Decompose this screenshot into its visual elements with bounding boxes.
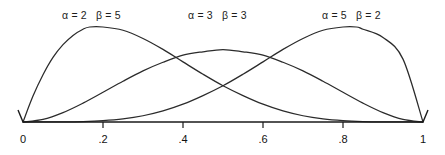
- curves-group: [23, 27, 423, 122]
- curve-parameter-label: α = 2β = 5: [62, 9, 121, 21]
- density-curve: [23, 27, 423, 122]
- beta-distribution-figure: α = 2β = 5α = 3β = 3α = 5β = 2 0.2.4.6.8…: [0, 0, 445, 155]
- x-tick-label: .2: [98, 133, 107, 145]
- beta-parameter-text: β = 5: [96, 9, 121, 21]
- x-tick-label: 1: [420, 133, 426, 145]
- plot-area: [0, 0, 445, 155]
- alpha-parameter-text: α = 5: [322, 9, 347, 21]
- curve-parameter-label: α = 3β = 3: [188, 9, 247, 21]
- density-curve: [23, 27, 423, 122]
- x-axis-right-cap: [423, 110, 428, 122]
- x-axis-group: [18, 110, 428, 128]
- alpha-parameter-text: α = 2: [62, 9, 87, 21]
- x-tick-label: .6: [258, 133, 267, 145]
- beta-parameter-text: β = 3: [222, 9, 247, 21]
- x-axis-left-cap: [18, 110, 23, 122]
- x-tick-label: .4: [178, 133, 187, 145]
- alpha-parameter-text: α = 3: [188, 9, 213, 21]
- beta-parameter-text: β = 2: [356, 9, 381, 21]
- x-tick-label: 0: [20, 133, 26, 145]
- x-tick-label: .8: [338, 133, 347, 145]
- curve-parameter-label: α = 5β = 2: [322, 9, 381, 21]
